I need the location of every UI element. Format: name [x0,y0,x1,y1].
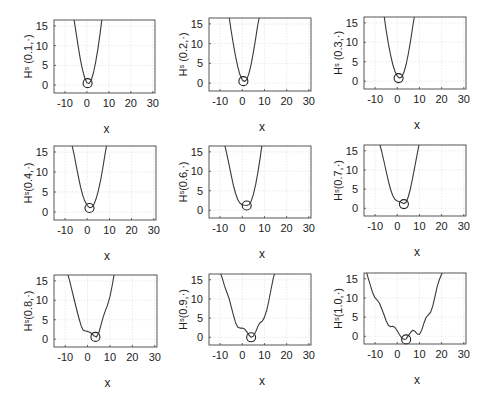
y-tick-label: 0 [197,204,203,216]
x-tick-label: 10 [413,348,425,360]
x-axis-label: x [104,249,110,263]
curve-line [380,142,420,203]
y-tick-label: 0 [197,331,203,343]
y-tick-label: 10 [36,166,48,178]
x-tick-label: 30 [149,351,161,363]
y-tick-label: 15 [191,274,203,286]
panel-3: -100102030051015xHˢ (0.3,·) [332,13,470,132]
x-tick-label: 10 [104,351,116,363]
x-tick-label: 0 [84,224,90,236]
panel-4: -100102030051015xHˢ(0.4,·) [22,142,160,263]
x-tick-label: 30 [458,220,470,232]
x-tick-label: 10 [413,93,425,105]
y-axis-label: Hˢ(0.9,·) [177,289,189,330]
y-tick-label: 10 [346,164,358,176]
x-tick-label: 0 [239,222,245,234]
y-tick-label: 10 [36,40,48,52]
x-tick-label: 20 [280,222,292,234]
x-tick-label: 10 [103,97,115,109]
axes-box [364,145,466,216]
y-tick-label: 0 [352,330,358,342]
x-tick-label: 0 [85,351,91,363]
minimum-marker [394,74,403,83]
y-tick-label: 15 [346,145,358,157]
x-tick-label: 20 [125,97,137,109]
x-tick-label: -10 [367,220,383,232]
axes-box [209,18,311,91]
x-tick-label: 0 [84,97,90,109]
y-tick-label: 0 [42,79,48,91]
curve-line [67,272,114,337]
y-tick-label: 15 [36,146,48,158]
x-tick-label: 0 [394,93,400,105]
y-axis-label: Hˢ(0.6,·) [177,161,189,202]
x-tick-label: 20 [126,351,138,363]
x-tick-label: 30 [148,224,160,236]
axes-box [54,20,155,93]
x-tick-label: 30 [303,95,315,107]
panel-7: -100102030051015xHˢ(0.8,·) [22,272,161,390]
x-tick-label: -10 [212,349,228,361]
x-tick-label: 10 [413,220,425,232]
y-tick-label: 5 [352,311,358,323]
y-tick-label: 15 [36,20,48,32]
x-tick-label: -10 [212,95,228,107]
x-tick-label: 10 [258,95,270,107]
y-tick-label: 5 [197,185,203,197]
y-tick-label: 0 [352,202,358,214]
x-tick-label: 20 [280,95,292,107]
x-tick-label: 30 [458,93,470,105]
x-axis-label: x [104,122,110,136]
panel-2: -100102030051015xHˢ (0.2,·) [177,14,315,134]
y-tick-label: 10 [36,294,48,306]
curve-line [366,270,444,339]
panel-6: -100102030051015xHˢ(0.7,·) [332,142,470,259]
x-tick-label: 20 [435,348,447,360]
figure-grid: -100102030051015xHˢ (0.1,·)-100102030051… [0,0,484,402]
y-tick-label: 15 [191,18,203,30]
x-tick-label: 30 [303,349,315,361]
y-tick-label: 10 [191,38,203,50]
x-tick-label: 10 [103,224,115,236]
panel-9: -100102030051015xHˢ(1.0,·) [332,270,470,387]
x-axis-label: x [414,245,420,259]
x-tick-label: -10 [367,93,383,105]
y-tick-label: 5 [197,57,203,69]
y-axis-label: Hˢ(0.7,·) [332,160,344,201]
axes-box [364,17,466,89]
y-tick-label: 15 [346,17,358,29]
axes-box [364,273,466,344]
y-tick-label: 0 [42,333,48,345]
x-tick-label: 30 [458,348,470,360]
y-tick-label: 0 [352,75,358,87]
y-tick-label: 5 [352,56,358,68]
x-tick-label: -10 [212,222,228,234]
x-tick-label: 10 [258,222,270,234]
x-axis-label: x [259,374,265,388]
x-tick-label: -10 [57,351,73,363]
x-tick-label: 0 [394,348,400,360]
y-tick-label: 0 [42,206,48,218]
x-tick-label: -10 [367,348,383,360]
x-tick-label: 20 [125,224,137,236]
curve-line [72,142,108,208]
y-tick-label: 5 [42,59,48,71]
y-tick-label: 10 [191,165,203,177]
y-tick-label: 10 [346,36,358,48]
x-tick-label: 20 [280,349,292,361]
y-axis-label: Hˢ(1.0,·) [332,288,344,329]
y-tick-label: 15 [191,146,203,158]
x-tick-label: 0 [239,95,245,107]
panel-1: -100102030051015xHˢ (0.1,·) [22,16,159,136]
x-axis-label: x [414,373,420,387]
y-axis-label: Hˢ (0.2,·) [177,32,189,76]
x-tick-label: -10 [57,97,73,109]
y-tick-label: 5 [42,186,48,198]
y-axis-label: Hˢ (0.3,·) [332,31,344,75]
y-axis-label: Hˢ(0.4,·) [22,162,34,203]
curve-line [220,270,275,337]
y-axis-label: Hˢ (0.1,·) [22,34,34,78]
x-tick-label: 0 [394,220,400,232]
y-tick-label: 15 [36,275,48,287]
y-axis-label: Hˢ(0.8,·) [22,290,34,331]
